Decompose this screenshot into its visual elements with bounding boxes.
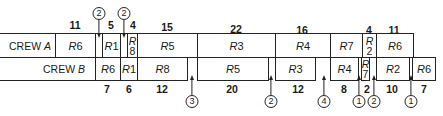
- wait-marker-circle: 2: [368, 95, 381, 108]
- arrow-down-icon: [97, 33, 101, 38]
- duration-label: 11: [69, 19, 80, 31]
- crew-b-task-r2: R2: [376, 57, 410, 81]
- wait-marker-circle: 1: [353, 95, 366, 108]
- crew-b-letter: B: [78, 63, 85, 75]
- wait-marker-stem: [410, 79, 411, 95]
- wait-marker-circle: 2: [265, 95, 278, 108]
- wait-marker-stem: [358, 79, 359, 95]
- crew-b-task-r1: R1: [120, 57, 138, 81]
- crew-b-label: CREW B: [0, 57, 96, 81]
- duration-label: 6: [126, 83, 132, 95]
- duration-label: 12: [292, 83, 304, 95]
- crew-a-letter: A: [44, 40, 51, 52]
- wait-marker-circle: 2: [118, 7, 131, 20]
- crew-a-label: CREW A: [0, 33, 56, 58]
- wait-marker-stem: [373, 79, 374, 95]
- arrow-down-icon: [122, 33, 126, 38]
- crew-b-task-r6-second: R6: [412, 57, 436, 81]
- duration-label: 16: [296, 24, 308, 36]
- duration-label: 7: [421, 83, 427, 95]
- crew-b-task-r3: R3: [275, 57, 316, 81]
- crew-b-task-r6: R6: [95, 57, 121, 81]
- duration-label: 7: [104, 83, 110, 95]
- crew-a-task-r3: R3: [197, 33, 276, 58]
- duration-label: 4: [366, 24, 372, 36]
- wait-marker-circle: 3: [186, 95, 199, 108]
- wait-marker-circle: 2: [93, 7, 106, 20]
- duration-label: 20: [226, 83, 238, 95]
- wait-marker-circle: 1: [405, 95, 418, 108]
- wait-marker-stem: [270, 79, 271, 95]
- duration-label: 8: [341, 83, 347, 95]
- crew-b-task-r5: R5: [197, 57, 269, 81]
- duration-label: 12: [156, 83, 168, 95]
- crew-a-task-r2: R2: [362, 33, 377, 58]
- wait-marker-stem: [191, 79, 192, 95]
- duration-label: 5: [108, 19, 114, 31]
- crew-a-task-r4: R4: [275, 33, 331, 58]
- crew-a-task-r7: R7: [330, 33, 363, 58]
- crew-a-task-r5: R5: [137, 33, 198, 58]
- crew-b-task-r4: R4: [330, 57, 359, 81]
- duration-label: 10: [386, 83, 398, 95]
- crew-a-label-text: CREW: [9, 40, 41, 52]
- duration-label: 11: [388, 24, 399, 36]
- duration-label: 2: [364, 83, 370, 95]
- crew-a-task-r6-second: R6: [376, 33, 414, 58]
- crew-a-task-r1: R1: [102, 33, 121, 58]
- wait-marker-stem: [123, 20, 124, 34]
- crew-b-task-r8: R8: [137, 57, 188, 81]
- wait-marker-stem: [98, 20, 99, 34]
- wait-marker-stem: [323, 79, 324, 95]
- wait-marker-circle: 4: [318, 95, 331, 108]
- crew-a-task-r6: R6: [55, 33, 96, 58]
- duration-label: 4: [130, 19, 136, 31]
- duration-label: 15: [161, 21, 173, 33]
- crew-b-label-text: CREW: [43, 63, 75, 75]
- duration-label: 22: [230, 23, 242, 35]
- crew-b-task-r7: R7: [361, 57, 370, 81]
